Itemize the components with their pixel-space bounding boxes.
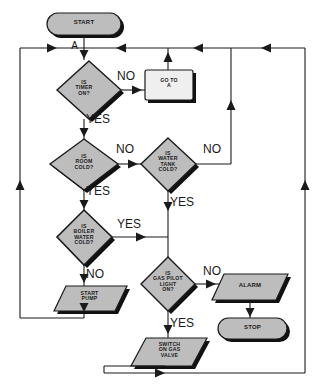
node-is-boiler-water-cold bbox=[57, 210, 115, 268]
node-is-gas-pilot-light-on bbox=[141, 257, 198, 314]
node-is-timer-on bbox=[57, 61, 124, 122]
node-stop bbox=[218, 318, 290, 342]
node-is-room-cold bbox=[50, 139, 121, 193]
flowchart-page: START ISTIMERON? GO TOA ISROOMCOLD? ISWA… bbox=[0, 0, 318, 388]
flowchart-canvas bbox=[0, 0, 318, 388]
node-start bbox=[47, 13, 124, 38]
node-alarm bbox=[212, 274, 291, 303]
edge-a-to-timer-arrow bbox=[80, 50, 89, 59]
node-go-to-a bbox=[145, 70, 196, 103]
node-is-water-tank-cold bbox=[141, 138, 199, 194]
node-start-pump bbox=[54, 286, 130, 314]
node-switch-on-gas-valve bbox=[131, 338, 210, 369]
